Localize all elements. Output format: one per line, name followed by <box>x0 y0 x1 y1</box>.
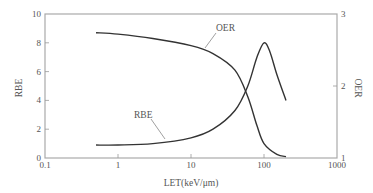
oer-leader-line <box>205 33 216 48</box>
y-axis-label: RBE <box>14 79 24 98</box>
y-tick-label: 0 <box>37 153 42 163</box>
y-tick-label: 4 <box>37 95 42 105</box>
y-axis-ticks: 0246810 <box>32 9 49 163</box>
plot-frame <box>45 14 337 158</box>
y2-axis-ticks: 123 <box>333 9 346 163</box>
x-axis-label: LET(keV/μm) <box>164 178 219 189</box>
y2-tick-label: 1 <box>341 153 346 163</box>
y-tick-label: 6 <box>37 67 42 77</box>
plot-area <box>45 14 337 158</box>
x-axis-ticks: 0.11101001000 <box>39 154 346 170</box>
y2-tick-label: 3 <box>341 9 346 19</box>
rbe-annotation: RBE <box>134 110 153 120</box>
rbe-leader-line <box>151 119 165 139</box>
y2-tick-label: 2 <box>341 81 346 91</box>
x-tick-label: 10 <box>187 160 197 170</box>
chart: 0.11101001000 0246810 123 OER RBE RBE OE… <box>0 0 373 193</box>
y-tick-label: 8 <box>37 38 42 48</box>
y-tick-label: 2 <box>37 124 42 134</box>
x-tick-label: 0.1 <box>39 160 50 170</box>
x-tick-label: 100 <box>257 160 271 170</box>
rbe-curve <box>96 43 286 145</box>
oer-annotation: OER <box>216 23 236 33</box>
y2-axis-label: OER <box>353 79 363 99</box>
y-tick-label: 10 <box>32 9 42 19</box>
x-tick-label: 1 <box>116 160 121 170</box>
